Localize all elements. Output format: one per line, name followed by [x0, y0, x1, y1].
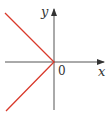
- x-axis-label: x: [98, 64, 106, 79]
- graph: y 0 x: [0, 0, 109, 118]
- y-axis-label: y: [40, 4, 49, 19]
- origin-label: 0: [58, 64, 66, 78]
